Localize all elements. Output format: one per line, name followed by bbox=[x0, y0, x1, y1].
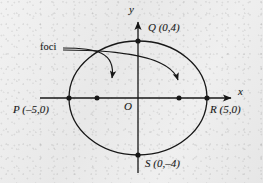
focus-right-marker bbox=[177, 96, 182, 101]
point-R-marker bbox=[204, 95, 209, 100]
foci-leader-left bbox=[63, 48, 113, 78]
foci-leader-right bbox=[63, 50, 178, 80]
point-Q-marker bbox=[135, 38, 140, 43]
origin-label: O bbox=[124, 101, 132, 112]
focus-left-marker bbox=[95, 96, 100, 101]
x-axis-label: x bbox=[238, 86, 243, 97]
point-P-marker bbox=[66, 95, 71, 100]
point-label-S: S (0,–4) bbox=[145, 158, 180, 169]
point-label-R: R (5,0) bbox=[210, 104, 241, 115]
point-label-P: P (–5,0) bbox=[13, 104, 49, 115]
y-axis-label: y bbox=[129, 4, 134, 15]
ellipse-diagram: y x O foci Q (0,4) P (–5,0) R (5,0) S (0… bbox=[0, 0, 263, 183]
foci-label: foci bbox=[40, 42, 56, 53]
point-S-marker bbox=[135, 152, 140, 157]
diagram-canvas bbox=[0, 0, 263, 183]
point-label-Q: Q (0,4) bbox=[148, 22, 180, 33]
